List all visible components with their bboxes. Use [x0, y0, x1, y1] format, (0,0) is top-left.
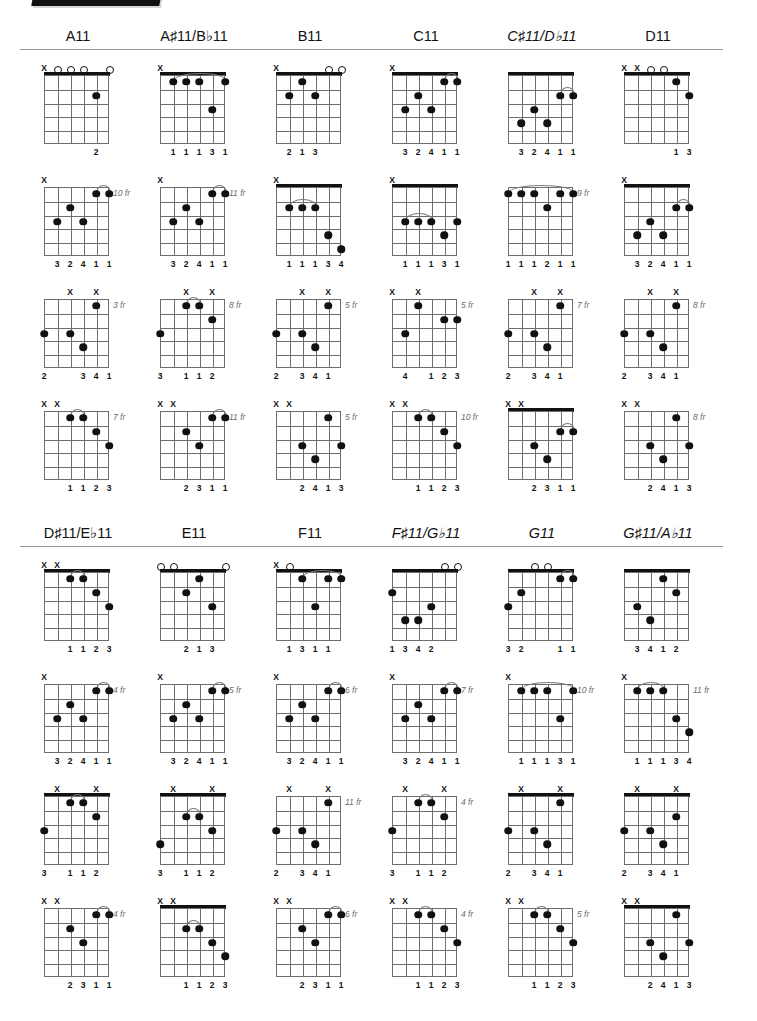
- finger-dot: [427, 603, 435, 611]
- diagram-cell-F11-pos1: X1311: [252, 547, 368, 659]
- diagram-cell-C11-pos4: XX10 fr1123: [368, 386, 484, 498]
- fret-line: [277, 104, 340, 105]
- finger-number: 2: [416, 147, 421, 157]
- fretboard: 10 fr: [508, 684, 574, 754]
- string-line: [677, 300, 678, 367]
- fret-line: [509, 852, 572, 853]
- finger-dot: [453, 687, 461, 695]
- finger-dot: [337, 442, 345, 450]
- fret-line: [393, 104, 456, 105]
- muted-string-icon: X: [389, 897, 395, 906]
- string-line: [432, 412, 433, 479]
- fret-position-label: 6 fr: [345, 909, 357, 919]
- fret-line: [509, 937, 572, 938]
- fretboard: 7 fr: [392, 684, 458, 754]
- fret-grid: [508, 75, 573, 144]
- muted-string-icon: X: [402, 785, 408, 794]
- chord-diagram: X10 fr32411: [44, 176, 110, 271]
- fret-line: [161, 90, 224, 91]
- finger-numbers: 11131: [508, 756, 574, 768]
- fret-grid: [624, 908, 689, 977]
- string-line: [432, 300, 433, 367]
- fret-line: [45, 90, 108, 91]
- finger-number: 2: [674, 644, 679, 654]
- finger-number: 1: [687, 259, 692, 269]
- fret-line: [45, 587, 108, 588]
- string-line: [97, 573, 98, 640]
- string-line: [316, 76, 317, 143]
- fret-line: [393, 852, 456, 853]
- fret-line: [393, 229, 456, 230]
- fret-position-label: 4 fr: [461, 797, 473, 807]
- string-line: [200, 300, 201, 367]
- chord-diagram: XX8 fr3112: [160, 288, 226, 383]
- finger-dot: [337, 687, 345, 695]
- chord-diagram: XX10 fr1123: [392, 400, 458, 495]
- fret-position-label: 11 fr: [229, 188, 245, 198]
- fretboard: [44, 75, 110, 145]
- fret-line: [625, 467, 688, 468]
- finger-numbers: 2341: [276, 868, 342, 880]
- finger-number: 4: [81, 756, 86, 766]
- diagram-cell-Csharp11-pos4: XX2311: [484, 386, 600, 498]
- finger-number: 1: [506, 259, 511, 269]
- finger-dot: [569, 575, 577, 583]
- fret-line: [393, 117, 456, 118]
- muted-string-icon: X: [273, 897, 279, 906]
- finger-number: 4: [403, 371, 408, 381]
- string-line: [213, 188, 214, 255]
- finger-number: 3: [532, 371, 537, 381]
- finger-number: 1: [287, 644, 292, 654]
- fret-line: [277, 601, 340, 602]
- finger-number: 3: [55, 756, 60, 766]
- finger-numbers: 111211: [508, 259, 574, 271]
- fret-line: [277, 740, 340, 741]
- finger-dot: [272, 827, 280, 835]
- chord-diagram: X11134: [276, 176, 342, 271]
- finger-dot: [414, 218, 422, 226]
- finger-number: 1: [171, 147, 176, 157]
- fret-line: [161, 453, 224, 454]
- finger-numbers: 32411: [44, 756, 110, 768]
- string-line: [174, 300, 175, 367]
- finger-number: 1: [429, 980, 434, 990]
- fretboard: 4 fr: [392, 796, 458, 866]
- string-line: [290, 76, 291, 143]
- finger-numbers: 3112: [160, 868, 226, 880]
- finger-dot: [659, 841, 667, 849]
- fretboard: 11 fr: [624, 684, 690, 754]
- finger-number: 3: [403, 644, 408, 654]
- fretboard: [508, 75, 574, 145]
- string-line: [174, 412, 175, 479]
- finger-dot: [440, 316, 448, 324]
- finger-number: 4: [429, 756, 434, 766]
- muted-string-icon: X: [183, 288, 189, 297]
- fret-line: [509, 328, 572, 329]
- fret-line: [509, 453, 572, 454]
- finger-number: 1: [455, 147, 460, 157]
- fret-line: [45, 467, 108, 468]
- finger-dot: [208, 316, 216, 324]
- finger-dot: [311, 939, 319, 947]
- fret-line: [509, 699, 572, 700]
- finger-number: 3: [300, 868, 305, 878]
- finger-number: 3: [635, 644, 640, 654]
- fret-line: [45, 628, 108, 629]
- fret-line: [625, 950, 688, 951]
- finger-dot: [208, 106, 216, 114]
- fret-line: [45, 426, 108, 427]
- fret-grid: [44, 796, 109, 865]
- finger-numbers: 32411: [624, 259, 690, 271]
- string-line: [187, 797, 188, 864]
- string-line: [432, 797, 433, 864]
- diagram-cell-D11-pos3: XX8 fr2341: [600, 274, 716, 386]
- fret-line: [393, 341, 456, 342]
- finger-dot: [556, 302, 564, 310]
- muted-string-icon: X: [518, 897, 524, 906]
- fret-line: [161, 726, 224, 727]
- string-line: [97, 412, 98, 479]
- finger-dot: [530, 827, 538, 835]
- fret-line: [625, 628, 688, 629]
- finger-dot: [66, 701, 74, 709]
- string-line: [303, 685, 304, 752]
